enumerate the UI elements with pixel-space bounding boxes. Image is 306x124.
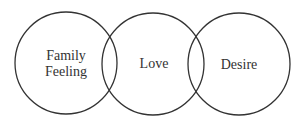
- label-family: Family: [46, 48, 86, 63]
- venn-diagram: Family Feeling Love Desire: [0, 0, 306, 124]
- label-desire: Desire: [221, 57, 258, 72]
- label-feeling: Feeling: [45, 64, 87, 79]
- label-love: Love: [140, 56, 169, 71]
